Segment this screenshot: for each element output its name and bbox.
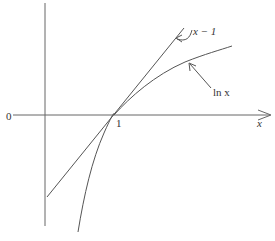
log-label: ln x xyxy=(213,86,230,98)
tangent-label: x − 1 xyxy=(192,25,216,37)
log-pointer-arrow xyxy=(190,64,211,88)
tangent-line xyxy=(47,28,184,197)
x-axis-label: x xyxy=(256,117,262,129)
diagram-canvas: 0 1 x x − 1 ln x xyxy=(0,0,275,241)
origin-label: 0 xyxy=(6,110,12,122)
tangent-pointer-arrow xyxy=(177,30,192,40)
one-tick-label: 1 xyxy=(116,117,122,129)
log-curve xyxy=(78,46,232,232)
